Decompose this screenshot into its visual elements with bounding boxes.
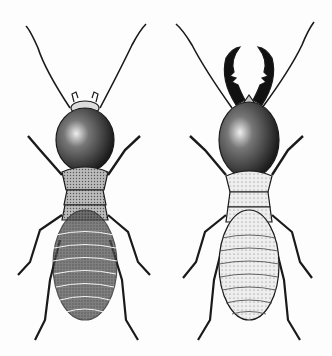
termite-left — [18, 24, 150, 340]
antenna-left-icon — [26, 26, 70, 108]
termites-illustration — [0, 0, 332, 356]
illustration-canvas — [0, 0, 332, 356]
mandible-left-icon — [224, 47, 245, 105]
antenna-right-icon — [100, 24, 146, 108]
termite-right — [176, 22, 314, 340]
antenna-left-icon — [176, 24, 232, 108]
